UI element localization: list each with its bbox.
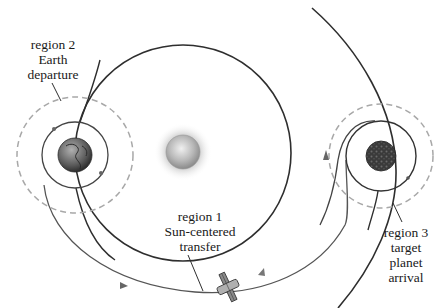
departure-hyperbola-lower [76, 188, 115, 260]
target-orbit-arrow [406, 176, 410, 180]
sun-icon [166, 135, 200, 169]
region3-label: region 3 target planet arrival [374, 225, 435, 285]
region3-line4: arrival [374, 270, 435, 285]
region2-label: region 2 Earth departure [14, 37, 92, 82]
earth-orbit-arrow [52, 127, 56, 131]
region1-title: region 1 [152, 209, 248, 224]
earth-orbit-arrow [99, 171, 103, 175]
region1-label: region 1 Sun-centered transfer [152, 209, 248, 254]
region2-title: region 2 [14, 37, 92, 52]
region2-line3: departure [14, 67, 92, 82]
region1-line3: transfer [152, 239, 248, 254]
arrival-direction-arrow [323, 150, 329, 160]
transfer-direction-arrow [258, 268, 265, 276]
target-planet-icon [366, 141, 396, 171]
region2-line2: Earth [14, 52, 92, 67]
transfer-direction-arrow [120, 282, 128, 289]
region1-line2: Sun-centered [152, 224, 248, 239]
region3-line3: planet [374, 255, 435, 270]
spacecraft-icon [212, 269, 245, 305]
region2-leader [52, 83, 61, 101]
region3-title: region 3 [374, 225, 435, 240]
region3-line2: target [374, 240, 435, 255]
